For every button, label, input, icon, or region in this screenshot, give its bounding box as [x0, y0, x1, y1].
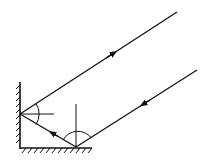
emergent-ray-arrow-icon [106, 53, 114, 58]
horizontal-mirror [20, 148, 92, 153]
angle-arc-at-horizontal-mirror [63, 131, 91, 140]
incident-ray-arrow-icon [143, 100, 150, 104]
incident-ray [76, 70, 197, 147]
emergent-ray [20, 12, 177, 114]
two-mirror-reflection-diagram [0, 0, 210, 165]
intermediate-ray [20, 114, 76, 147]
intermediate-ray-arrow-icon [52, 133, 58, 137]
vertical-mirror [16, 82, 20, 149]
